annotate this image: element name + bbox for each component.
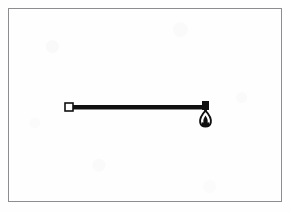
horizontal-beam <box>70 105 205 109</box>
left-support-group <box>65 103 73 111</box>
right-block-group <box>202 101 209 110</box>
beam-group <box>70 105 205 110</box>
mechanics-diagram <box>8 8 282 202</box>
pendant-group <box>200 109 211 127</box>
hollow-square-pivot-icon <box>65 103 73 111</box>
bob-base-lower <box>202 124 208 126</box>
solid-block-icon <box>202 101 209 110</box>
scanned-page <box>0 0 291 212</box>
beam-shadow-edge <box>70 109 205 110</box>
